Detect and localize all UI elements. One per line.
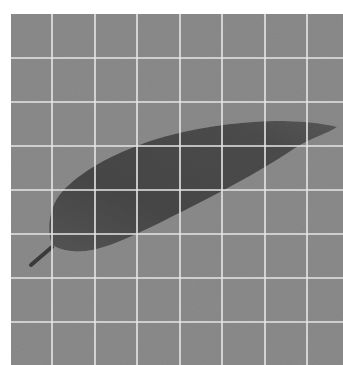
leaf-grid-graphic <box>11 14 343 365</box>
leaf-photo <box>11 14 343 365</box>
